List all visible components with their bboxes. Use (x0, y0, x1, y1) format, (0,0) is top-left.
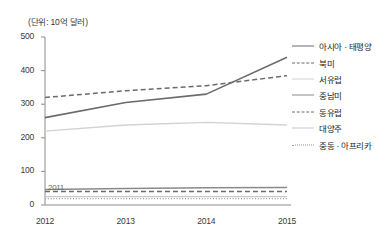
y-axis-tick-label: 100 (8, 165, 34, 175)
legend-item[interactable]: 대양주 (292, 120, 390, 136)
x-axis-tick-label: 2015 (267, 216, 307, 226)
legend-line-swatch-icon (292, 58, 314, 68)
legend-item-label: 동유럽 (319, 106, 342, 118)
legend-item[interactable]: 아시아 · 태평양 (292, 38, 390, 54)
legend-line-swatch-icon (292, 74, 314, 84)
chart-annotation: 2011 (48, 183, 64, 192)
series-line (45, 57, 287, 117)
chart-figure: (단위: 10억 달러) 아시아 · 태평양북미서유럽중남미동유럽대양주중동 ·… (0, 0, 392, 242)
legend-line-swatch-icon (292, 123, 314, 133)
legend-item-label: 서유럽 (319, 73, 342, 85)
y-axis-tick-label: 400 (8, 65, 34, 75)
legend-item[interactable]: 동유럽 (292, 104, 390, 120)
legend-line-swatch-icon (292, 41, 314, 51)
legend-item[interactable]: 서유럽 (292, 71, 390, 87)
legend-item-label: 중남미 (319, 89, 342, 101)
x-axis-tick-label: 2012 (25, 216, 65, 226)
legend-item[interactable]: 중동 · 아프리카 (292, 136, 390, 152)
x-axis-tick-label: 2013 (106, 216, 146, 226)
legend-line-swatch-icon (292, 140, 314, 150)
legend-item-label: 아시아 · 태평양 (319, 40, 372, 52)
legend-item[interactable]: 중남미 (292, 87, 390, 103)
legend-item-label: 북미 (319, 57, 334, 69)
series-line (45, 76, 287, 98)
legend-item[interactable]: 북미 (292, 54, 390, 70)
y-axis-tick-label: 0 (8, 199, 34, 209)
legend-line-swatch-icon (292, 107, 314, 117)
y-axis-tick-label: 300 (8, 98, 34, 108)
y-axis-tick-label: 500 (8, 31, 34, 41)
series-line (45, 122, 287, 131)
legend-item-label: 대양주 (319, 122, 342, 134)
series-line (45, 188, 287, 190)
legend-line-swatch-icon (292, 90, 314, 100)
legend-item-label: 중동 · 아프리카 (319, 139, 372, 151)
chart-legend: 아시아 · 태평양북미서유럽중남미동유럽대양주중동 · 아프리카 (292, 38, 390, 153)
x-axis-tick-label: 2014 (186, 216, 226, 226)
y-axis-tick-label: 200 (8, 132, 34, 142)
